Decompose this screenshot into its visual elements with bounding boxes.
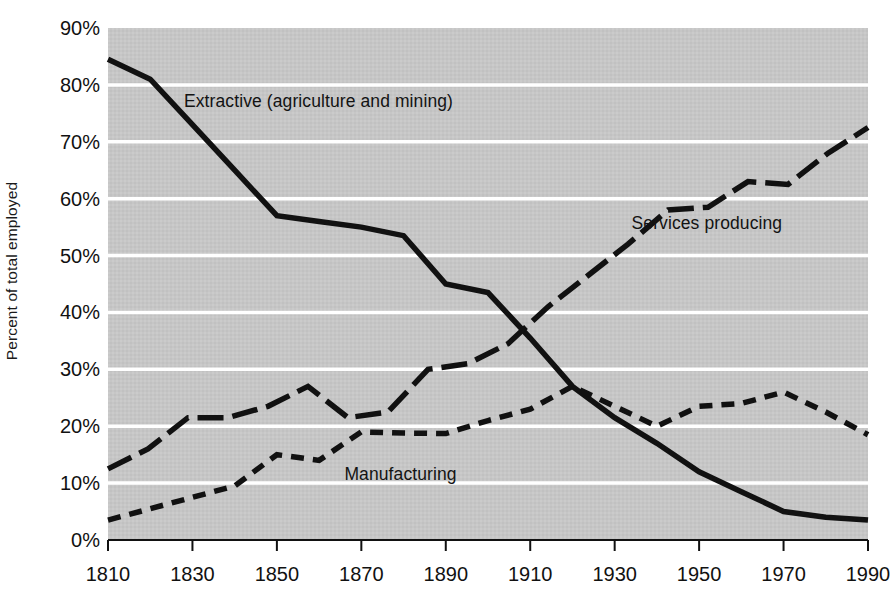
x-tick-label: 1910 [493, 564, 567, 584]
y-tick-label: 20% [44, 416, 100, 436]
x-tick-label: 1890 [409, 564, 483, 584]
series-label-2: Manufacturing [344, 464, 456, 485]
y-tick-label: 60% [44, 189, 100, 209]
y-axis-tick-labels: 0%10%20%30%40%50%60%70%80%90% [38, 0, 100, 590]
series-label-1: Services producing [632, 213, 783, 234]
y-tick-label: 10% [44, 473, 100, 493]
y-tick-label: 30% [44, 359, 100, 379]
y-tick-label: 80% [44, 75, 100, 95]
x-tick-label: 1870 [324, 564, 398, 584]
x-tick-label: 1850 [240, 564, 314, 584]
y-tick-label: 50% [44, 246, 100, 266]
x-tick-label: 1930 [578, 564, 652, 584]
y-tick-label: 0% [44, 530, 100, 550]
chart-container: 0%10%20%30%40%50%60%70%80%90% Percent of… [0, 0, 891, 590]
x-tick-label: 1830 [155, 564, 229, 584]
x-tick-label: 1810 [71, 564, 145, 584]
y-axis-title-text: Percent of total employed [3, 11, 21, 531]
plot-area [0, 0, 891, 590]
x-tick-label: 1950 [662, 564, 736, 584]
series-label-0: Extractive (agriculture and mining) [184, 91, 453, 112]
y-tick-label: 90% [44, 18, 100, 38]
x-tick-label: 1970 [747, 564, 821, 584]
x-axis-tick-labels: 1810183018501870189019101930195019701990 [0, 550, 891, 584]
y-tick-label: 70% [44, 132, 100, 152]
y-tick-label: 40% [44, 302, 100, 322]
x-tick-label: 1990 [831, 564, 891, 584]
